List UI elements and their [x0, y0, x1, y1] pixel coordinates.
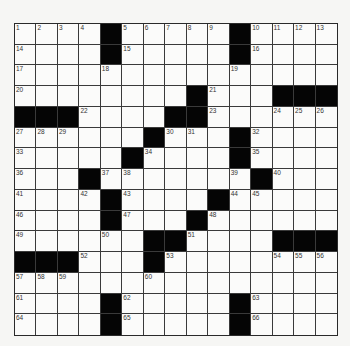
grid-cell[interactable]	[58, 211, 79, 232]
grid-cell[interactable]: 2	[36, 24, 57, 45]
grid-cell[interactable]	[208, 314, 229, 335]
grid-cell[interactable]: 5	[122, 24, 143, 45]
grid-cell[interactable]: 16	[251, 45, 272, 66]
grid-cell[interactable]	[122, 231, 143, 252]
grid-cell[interactable]	[273, 128, 294, 149]
grid-cell[interactable]	[58, 148, 79, 169]
grid-cell[interactable]: 17	[15, 65, 36, 86]
grid-cell[interactable]	[36, 231, 57, 252]
grid-cell[interactable]: 39	[230, 169, 251, 190]
grid-cell[interactable]	[230, 231, 251, 252]
grid-cell[interactable]	[316, 45, 337, 66]
grid-cell[interactable]: 52	[79, 252, 100, 273]
grid-cell[interactable]	[165, 273, 186, 294]
grid-cell[interactable]: 31	[187, 128, 208, 149]
grid-cell[interactable]	[144, 211, 165, 232]
grid-cell[interactable]: 24	[273, 107, 294, 128]
grid-cell[interactable]: 29	[58, 128, 79, 149]
grid-cell[interactable]	[316, 148, 337, 169]
grid-cell[interactable]	[316, 128, 337, 149]
grid-cell[interactable]	[208, 65, 229, 86]
grid-cell[interactable]	[101, 86, 122, 107]
grid-cell[interactable]: 46	[15, 211, 36, 232]
grid-cell[interactable]: 51	[187, 231, 208, 252]
grid-cell[interactable]	[36, 294, 57, 315]
grid-cell[interactable]	[208, 294, 229, 315]
grid-cell[interactable]	[294, 65, 315, 86]
grid-cell[interactable]	[165, 314, 186, 335]
grid-cell[interactable]	[187, 252, 208, 273]
grid-cell[interactable]	[273, 65, 294, 86]
grid-cell[interactable]	[122, 86, 143, 107]
grid-cell[interactable]: 9	[208, 24, 229, 45]
grid-cell[interactable]: 22	[79, 107, 100, 128]
grid-cell[interactable]: 37	[101, 169, 122, 190]
grid-cell[interactable]: 45	[251, 190, 272, 211]
grid-cell[interactable]: 10	[251, 24, 272, 45]
grid-cell[interactable]	[36, 190, 57, 211]
grid-cell[interactable]	[273, 148, 294, 169]
grid-cell[interactable]	[208, 148, 229, 169]
grid-cell[interactable]	[122, 65, 143, 86]
grid-cell[interactable]	[165, 211, 186, 232]
grid-cell[interactable]	[36, 314, 57, 335]
grid-cell[interactable]	[79, 294, 100, 315]
grid-cell[interactable]	[122, 252, 143, 273]
grid-cell[interactable]	[165, 294, 186, 315]
grid-cell[interactable]	[79, 128, 100, 149]
grid-cell[interactable]: 56	[316, 252, 337, 273]
grid-cell[interactable]	[251, 65, 272, 86]
grid-cell[interactable]	[294, 169, 315, 190]
grid-cell[interactable]	[230, 252, 251, 273]
grid-cell[interactable]: 36	[15, 169, 36, 190]
grid-cell[interactable]	[294, 273, 315, 294]
grid-cell[interactable]: 66	[251, 314, 272, 335]
grid-cell[interactable]: 33	[15, 148, 36, 169]
grid-cell[interactable]: 55	[294, 252, 315, 273]
grid-cell[interactable]	[144, 294, 165, 315]
grid-cell[interactable]	[101, 273, 122, 294]
grid-cell[interactable]	[187, 45, 208, 66]
grid-cell[interactable]	[208, 169, 229, 190]
grid-cell[interactable]	[294, 148, 315, 169]
grid-cell[interactable]: 42	[79, 190, 100, 211]
grid-cell[interactable]	[101, 107, 122, 128]
grid-cell[interactable]: 65	[122, 314, 143, 335]
grid-cell[interactable]	[316, 314, 337, 335]
grid-cell[interactable]	[79, 273, 100, 294]
grid-cell[interactable]	[294, 211, 315, 232]
grid-cell[interactable]	[101, 252, 122, 273]
grid-cell[interactable]	[79, 231, 100, 252]
grid-cell[interactable]	[144, 107, 165, 128]
grid-cell[interactable]: 34	[144, 148, 165, 169]
grid-cell[interactable]: 63	[251, 294, 272, 315]
grid-cell[interactable]: 4	[79, 24, 100, 45]
grid-cell[interactable]	[294, 190, 315, 211]
grid-cell[interactable]	[58, 86, 79, 107]
grid-cell[interactable]	[316, 211, 337, 232]
grid-cell[interactable]: 61	[15, 294, 36, 315]
grid-cell[interactable]: 59	[58, 273, 79, 294]
grid-cell[interactable]	[122, 273, 143, 294]
grid-cell[interactable]	[230, 273, 251, 294]
grid-cell[interactable]: 28	[36, 128, 57, 149]
grid-cell[interactable]	[165, 148, 186, 169]
grid-cell[interactable]: 26	[316, 107, 337, 128]
grid-cell[interactable]	[58, 45, 79, 66]
grid-cell[interactable]: 25	[294, 107, 315, 128]
grid-cell[interactable]	[165, 45, 186, 66]
grid-cell[interactable]: 32	[251, 128, 272, 149]
grid-cell[interactable]	[187, 294, 208, 315]
grid-cell[interactable]	[144, 45, 165, 66]
grid-cell[interactable]	[273, 190, 294, 211]
grid-cell[interactable]: 11	[273, 24, 294, 45]
grid-cell[interactable]	[58, 169, 79, 190]
grid-cell[interactable]	[187, 190, 208, 211]
grid-cell[interactable]	[187, 65, 208, 86]
grid-cell[interactable]: 57	[15, 273, 36, 294]
grid-cell[interactable]	[79, 314, 100, 335]
grid-cell[interactable]	[165, 190, 186, 211]
grid-cell[interactable]	[79, 211, 100, 232]
grid-cell[interactable]	[36, 65, 57, 86]
grid-cell[interactable]	[79, 45, 100, 66]
